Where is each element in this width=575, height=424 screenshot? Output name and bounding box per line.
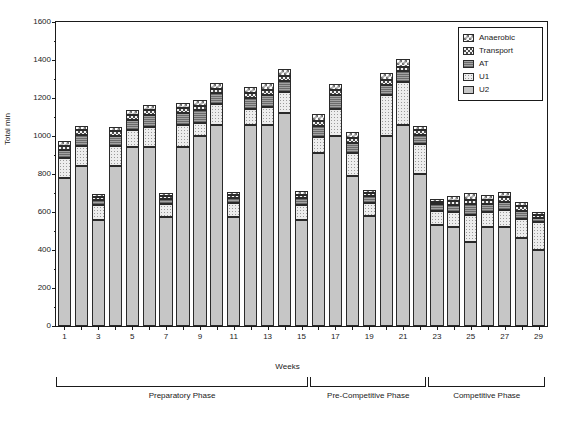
x-tick-label: 5 bbox=[122, 333, 142, 341]
bar-segment-anaerobic bbox=[498, 192, 511, 197]
bar-segment-transport bbox=[515, 206, 528, 211]
bar-week-12[interactable] bbox=[244, 87, 257, 326]
bar-segment-at bbox=[227, 198, 240, 204]
bar-segment-u2 bbox=[58, 178, 71, 326]
x-tick-mark bbox=[522, 326, 523, 330]
x-tick-mark bbox=[183, 326, 184, 330]
phase-label: Preparatory Phase bbox=[56, 391, 308, 400]
bar-segment-u2 bbox=[210, 125, 223, 326]
legend-item-anaerobic[interactable]: Anaerobic bbox=[463, 32, 538, 44]
legend-item-transport[interactable]: Transport bbox=[463, 45, 538, 57]
bar-week-25[interactable] bbox=[464, 193, 477, 326]
bar-week-14[interactable] bbox=[278, 69, 291, 326]
bar-week-19[interactable] bbox=[363, 190, 376, 326]
y-tick-label: 400 bbox=[5, 246, 56, 254]
legend-item-label: U2 bbox=[479, 86, 489, 94]
bar-week-16[interactable] bbox=[312, 114, 325, 326]
bar-segment-transport bbox=[481, 200, 494, 205]
bar-segment-at bbox=[481, 204, 494, 212]
bar-segment-transport bbox=[261, 90, 274, 95]
bar-week-27[interactable] bbox=[498, 192, 511, 326]
y-tick-minor bbox=[54, 231, 56, 232]
y-tick-minor bbox=[54, 193, 56, 194]
bar-segment-anaerobic bbox=[109, 127, 122, 132]
x-tick-label: 19 bbox=[359, 333, 379, 341]
bar-segment-u1 bbox=[447, 212, 460, 227]
bar-segment-u2 bbox=[312, 153, 325, 326]
bar-segment-u2 bbox=[363, 216, 376, 326]
bar-week-26[interactable] bbox=[481, 195, 494, 326]
bar-week-1[interactable] bbox=[58, 141, 71, 326]
bar-week-18[interactable] bbox=[346, 132, 359, 326]
x-tick-mark bbox=[200, 326, 201, 330]
bar-week-28[interactable] bbox=[515, 202, 528, 326]
bar-week-17[interactable] bbox=[329, 84, 342, 326]
bar-segment-transport bbox=[312, 121, 325, 126]
bar-week-6[interactable] bbox=[143, 105, 156, 326]
bar-week-24[interactable] bbox=[447, 196, 460, 326]
x-tick-label: 27 bbox=[495, 333, 515, 341]
phase-bracket-1: Preparatory Phase bbox=[56, 377, 308, 407]
bar-segment-anaerobic bbox=[329, 84, 342, 91]
bar-segment-u2 bbox=[75, 166, 88, 326]
x-tick-label: 13 bbox=[258, 333, 278, 341]
bar-segment-at bbox=[413, 135, 426, 144]
bar-week-7[interactable] bbox=[159, 193, 172, 326]
bar-segment-at bbox=[143, 115, 156, 126]
bar-segment-u1 bbox=[210, 104, 223, 125]
bar-segment-u1 bbox=[244, 109, 257, 124]
bar-segment-u2 bbox=[295, 220, 308, 326]
x-tick-mark bbox=[234, 326, 235, 330]
bar-week-4[interactable] bbox=[109, 127, 122, 327]
legend-item-at[interactable]: AT bbox=[463, 58, 538, 70]
bar-segment-u2 bbox=[126, 147, 139, 326]
bar-week-23[interactable] bbox=[430, 199, 443, 326]
bar-segment-anaerobic bbox=[481, 195, 494, 200]
legend-item-u2[interactable]: U2 bbox=[463, 84, 538, 96]
bar-segment-transport bbox=[396, 67, 409, 72]
bar-segment-u1 bbox=[126, 130, 139, 147]
phase-bracket-2: Pre-Competitive Phase bbox=[310, 377, 427, 407]
bar-segment-at bbox=[75, 135, 88, 146]
legend-item-label: U1 bbox=[479, 73, 489, 81]
x-tick-mark bbox=[217, 326, 218, 330]
bar-segment-anaerobic bbox=[193, 100, 206, 106]
x-tick-label: 15 bbox=[292, 333, 312, 341]
bar-week-11[interactable] bbox=[227, 192, 240, 326]
bar-segment-at bbox=[464, 204, 477, 214]
bar-segment-u1 bbox=[464, 215, 477, 243]
bar-week-15[interactable] bbox=[295, 191, 308, 326]
x-tick-mark bbox=[64, 326, 65, 330]
bar-segment-transport bbox=[464, 200, 477, 205]
bar-segment-u1 bbox=[193, 123, 206, 136]
bar-week-20[interactable] bbox=[380, 73, 393, 326]
bar-segment-u1 bbox=[176, 125, 189, 148]
x-tick-label: 21 bbox=[393, 333, 413, 341]
bar-week-3[interactable] bbox=[92, 194, 105, 326]
bar-segment-at bbox=[447, 205, 460, 212]
y-tick-label: 1600 bbox=[5, 18, 56, 26]
chart-root: Total min 020040060080010001200140016001… bbox=[0, 0, 575, 424]
bar-week-5[interactable] bbox=[126, 110, 139, 326]
bar-segment-transport bbox=[109, 131, 122, 136]
bar-segment-transport bbox=[329, 90, 342, 95]
bar-week-21[interactable] bbox=[396, 59, 409, 326]
bar-segment-u2 bbox=[92, 220, 105, 326]
x-tick-mark bbox=[166, 326, 167, 330]
bar-week-10[interactable] bbox=[210, 83, 223, 326]
bar-segment-u2 bbox=[413, 174, 426, 326]
bar-segment-u1 bbox=[75, 146, 88, 166]
bar-week-29[interactable] bbox=[532, 212, 545, 326]
bar-week-8[interactable] bbox=[176, 103, 189, 326]
x-tick-mark bbox=[268, 326, 269, 330]
bar-week-9[interactable] bbox=[193, 100, 206, 326]
legend-item-u1[interactable]: U1 bbox=[463, 71, 538, 83]
x-tick-mark bbox=[403, 326, 404, 330]
bar-week-22[interactable] bbox=[413, 126, 426, 326]
bar-segment-anaerobic bbox=[75, 126, 88, 131]
bar-segment-transport bbox=[498, 197, 511, 202]
bar-week-2[interactable] bbox=[75, 126, 88, 326]
bar-segment-transport bbox=[210, 89, 223, 94]
bar-segment-anaerobic bbox=[447, 196, 460, 201]
bar-week-13[interactable] bbox=[261, 83, 274, 326]
